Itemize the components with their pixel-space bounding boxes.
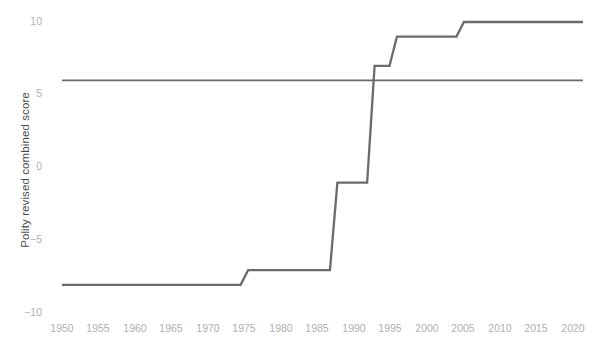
y-tick-label-5: 5 (8, 87, 42, 99)
x-tick-label-2000: 2000 (407, 322, 447, 334)
y-tick-label-0: 0 (8, 160, 42, 172)
x-tick-label-2010: 2010 (480, 322, 520, 334)
y-tick-label-neg10: −10 (8, 306, 42, 318)
x-tick-label-1970: 1970 (188, 322, 228, 334)
polity-score-line-chart: Polity revised combined score 10 5 0 −5 … (0, 0, 602, 340)
x-tick-label-2005: 2005 (443, 322, 483, 334)
x-tick-label-1975: 1975 (224, 322, 264, 334)
x-tick-label-1960: 1960 (115, 322, 155, 334)
series-group (62, 22, 583, 285)
x-tick-label-1950: 1950 (42, 322, 82, 334)
y-tick-label-neg5: −5 (8, 233, 42, 245)
x-tick-label-1990: 1990 (334, 322, 374, 334)
x-tick-label-2015: 2015 (516, 322, 556, 334)
x-tick-label-1980: 1980 (261, 322, 301, 334)
x-tick-label-2020: 2020 (553, 322, 593, 334)
plot-area (0, 0, 602, 340)
x-tick-label-1995: 1995 (370, 322, 410, 334)
x-tick-label-1965: 1965 (151, 322, 191, 334)
x-tick-label-1985: 1985 (297, 322, 337, 334)
y-tick-label-10: 10 (8, 15, 42, 27)
polity-score-step-line (62, 22, 583, 285)
x-tick-label-1955: 1955 (78, 322, 118, 334)
